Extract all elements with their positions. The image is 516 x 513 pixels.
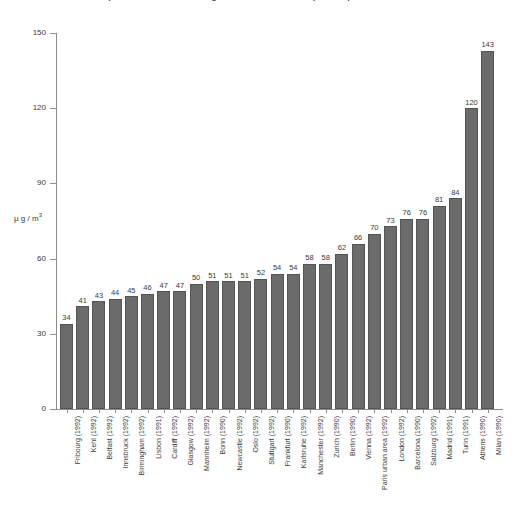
x-tick-label: Vienna (1992)	[362, 416, 375, 460]
bar: 81	[433, 206, 446, 409]
bar-rect	[481, 51, 494, 409]
bar: 46	[141, 294, 154, 409]
bar-rect	[222, 281, 235, 409]
bar: 120	[465, 108, 478, 409]
x-tick-label: Karlsruhe (1992)	[297, 416, 310, 468]
bar: 70	[368, 234, 381, 409]
x-tick-mark	[99, 409, 100, 413]
bar-rect	[60, 324, 73, 409]
x-tick-mark	[326, 409, 327, 413]
bar: 58	[303, 264, 316, 409]
x-tick-label: Cardiff (1992)	[168, 416, 181, 459]
bar-rect	[206, 281, 219, 409]
y-tick-label: 60	[6, 255, 46, 263]
bar: 62	[335, 254, 348, 409]
bar: 41	[76, 306, 89, 409]
bar-rect	[449, 198, 462, 409]
bar-rect	[173, 291, 186, 409]
x-tick-label: Berlin (1990)	[346, 416, 359, 456]
x-tick-mark	[472, 409, 473, 413]
bar-rect	[384, 226, 397, 409]
x-tick-label: Stuttgart (1992)	[265, 416, 278, 465]
bar-rect	[109, 299, 122, 409]
bar: 58	[319, 264, 332, 409]
bar-rect	[416, 219, 429, 410]
y-tick-mark	[50, 183, 56, 184]
x-tick-label: Barcelona (1990)	[411, 416, 424, 470]
x-tick-label: Lisbon (1991)	[152, 416, 165, 459]
y-tick-mark	[50, 108, 56, 109]
x-tick-label: Turin (1991)	[459, 416, 472, 454]
x-tick-mark	[180, 409, 181, 413]
x-tick-mark	[196, 409, 197, 413]
x-tick-mark	[374, 409, 375, 413]
bar-rect	[319, 264, 332, 409]
x-tick-label: Milan (1990)	[492, 416, 505, 455]
y-tick-label: 120	[6, 104, 46, 112]
bar-value-label: 143	[474, 41, 501, 49]
x-tick-mark	[439, 409, 440, 413]
x-tick-label: Madrid (1991)	[443, 416, 456, 460]
bar: 76	[416, 219, 429, 410]
bar: 52	[254, 279, 267, 409]
bar-rect	[465, 108, 478, 409]
x-tick-mark	[67, 409, 68, 413]
bar: 51	[238, 281, 251, 409]
x-tick-mark	[148, 409, 149, 413]
bar: 66	[352, 244, 365, 409]
x-tick-mark	[488, 409, 489, 413]
bar-rect	[271, 274, 284, 409]
x-tick-label: Athens (1990)	[476, 416, 489, 460]
x-tick-label: Oslo (1992)	[249, 416, 262, 453]
x-tick-label: Kehl (1992)	[87, 416, 100, 452]
chart-plot-area: µ g / m3 0306090120150 34414344454647475…	[0, 0, 516, 513]
bar: 54	[271, 274, 284, 409]
y-tick-label: 90	[6, 179, 46, 187]
y-axis-title: µ g / m3	[14, 212, 42, 223]
y-tick-mark	[50, 334, 56, 335]
x-tick-mark	[293, 409, 294, 413]
bar-rect	[433, 206, 446, 409]
bar-rect	[400, 219, 413, 410]
x-tick-mark	[310, 409, 311, 413]
x-tick-label: Newcastle (1992)	[233, 416, 246, 470]
bar-rect	[190, 284, 203, 409]
x-tick-label: Bonn (1990)	[216, 416, 229, 455]
x-tick-label: Birmingham (1992)	[135, 416, 148, 476]
bar: 51	[222, 281, 235, 409]
y-tick-label: 150	[6, 29, 46, 37]
x-tick-label: Innsbruck (1992)	[119, 416, 132, 469]
bar-rect	[303, 264, 316, 409]
bar-rect	[335, 254, 348, 409]
y-tick-label: 30	[6, 330, 46, 338]
bar: 76	[400, 219, 413, 410]
y-tick-mark	[50, 33, 56, 34]
bar-rect	[368, 234, 381, 409]
x-tick-mark	[83, 409, 84, 413]
bar-rect	[125, 296, 138, 409]
bar-rect	[287, 274, 300, 409]
x-tick-label: Salzburg (1992)	[427, 416, 440, 466]
x-tick-label: Glasgow (1992)	[184, 416, 197, 465]
bar: 51	[206, 281, 219, 409]
x-tick-mark	[407, 409, 408, 413]
y-axis-line	[56, 33, 57, 409]
x-tick-label: Mannheim (1992)	[200, 416, 213, 471]
x-tick-mark	[229, 409, 230, 413]
bar-rect	[352, 244, 365, 409]
x-tick-mark	[212, 409, 213, 413]
bar: 84	[449, 198, 462, 409]
bar-rect	[157, 291, 170, 409]
bar: 44	[109, 299, 122, 409]
x-tick-label: London (1992)	[395, 416, 408, 462]
x-axis-line	[56, 409, 503, 410]
x-tick-label: Frankfurt (1990)	[281, 416, 294, 466]
bar: 54	[287, 274, 300, 409]
bar: 43	[92, 301, 105, 409]
x-tick-label: Belfast (1992)	[103, 416, 116, 460]
x-tick-mark	[391, 409, 392, 413]
x-tick-label: Fribourg (1992)	[71, 416, 84, 464]
bar: 50	[190, 284, 203, 409]
x-tick-label: Paris urban area (1992)	[378, 416, 391, 490]
x-tick-label: Zurich (1990)	[330, 416, 343, 458]
